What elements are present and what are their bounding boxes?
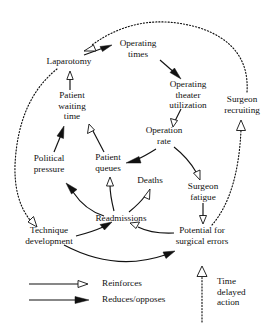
legend-reinforces-arrowhead-icon <box>78 281 88 288</box>
link-readmissions-to-political-pressure <box>66 183 104 216</box>
node-surgeon-fatigue-line-1: fatigue <box>190 192 216 202</box>
node-surgeon-fatigue-line-0: Surgeon <box>188 181 219 191</box>
node-patient-waiting-time: Patientwaitingtime <box>58 90 86 121</box>
link-surgical-errors-to-surgeon-recruiting <box>212 120 246 225</box>
link-surgeon-recruiting-to-laparotomy <box>84 22 247 92</box>
node-technique-dev-line-1: development <box>25 236 73 246</box>
link-technique-dev-to-surgical-errors <box>64 245 175 262</box>
node-deaths: Deaths <box>137 175 163 185</box>
nodes-layer: Laparotomy Operatingtimes Operatingtheat… <box>25 38 260 246</box>
legend-delay-arrowhead-icon <box>197 266 207 277</box>
node-technique-development: Techniquedevelopment <box>25 225 73 246</box>
node-technique-dev-line-0: Technique <box>30 225 68 235</box>
node-patient-waiting-line-1: waiting <box>58 101 86 111</box>
legend-reduces-label: Reduces/opposes <box>102 294 166 304</box>
svg-text:Operationrate: Operationrate <box>146 125 183 146</box>
svg-text:Deaths: Deaths <box>137 175 163 185</box>
node-surgeon-recruiting-line-0: Surgeon <box>227 94 258 104</box>
link-patient-queues-to-patient-waiting <box>88 124 105 152</box>
node-surgeon-recruiting: Surgeonrecruiting <box>224 94 260 115</box>
node-political-pressure-line-0: Political <box>34 153 65 163</box>
link-readmissions-to-patient-queues <box>107 177 115 211</box>
node-patient-waiting-line-2: time <box>64 111 80 121</box>
svg-text:Laparotomy: Laparotomy <box>47 56 92 66</box>
svg-text:Timedelayedaction: Timedelayedaction <box>217 276 246 307</box>
svg-text:Surgeonrecruiting: Surgeonrecruiting <box>224 94 260 115</box>
svg-text:Patientqueues: Patientqueues <box>95 152 121 173</box>
diagram-canvas: Laparotomy Operatingtimes Operatingtheat… <box>0 0 272 332</box>
legend-reduces-arrowhead-icon <box>75 297 89 304</box>
link-surgeon-fatigue-to-surgical-errors <box>200 203 207 224</box>
link-operation-rate-to-surgeon-fatigue <box>174 147 200 180</box>
link-political-pressure-to-patient-waiting <box>54 126 64 152</box>
svg-text:Readmissions: Readmissions <box>95 213 146 223</box>
node-ot-utilization-line-0: Operating <box>170 79 207 89</box>
node-operation-rate: Operationrate <box>146 125 183 146</box>
node-operating-times: Operatingtimes <box>120 38 157 59</box>
node-operation-rate-line-0: Operation <box>146 125 183 135</box>
node-surgeon-recruiting-line-1: recruiting <box>224 105 260 115</box>
legend-reinforces-label: Reinforces <box>102 278 142 288</box>
svg-text:Politicalpressure: Politicalpressure <box>34 153 65 174</box>
svg-text:Potential forsurgical errors: Potential forsurgical errors <box>176 225 229 246</box>
svg-text:Patientwaitingtime: Patientwaitingtime <box>58 90 86 121</box>
node-surgeon-fatigue: Surgeonfatigue <box>188 181 219 202</box>
node-operating-times-line-1: times <box>128 49 148 59</box>
legend-item-reinforces: Reinforces <box>29 278 142 288</box>
node-ot-utilization-line-1: theater <box>176 90 201 100</box>
node-operating-times-line-0: Operating <box>120 38 157 48</box>
node-readmissions-line-0: Readmissions <box>95 213 146 223</box>
svg-text:Operatingtimes: Operatingtimes <box>120 38 157 59</box>
node-surgical-errors-line-1: surgical errors <box>176 236 229 246</box>
node-laparotomy-line-0: Laparotomy <box>47 56 92 66</box>
causal-loop-diagram: Laparotomy Operatingtimes Operatingtheat… <box>0 0 272 332</box>
node-surgical-errors-line-0: Potential for <box>179 225 225 235</box>
node-political-pressure: Politicalpressure <box>34 153 65 174</box>
link-readmissions-to-deaths <box>129 189 150 212</box>
node-readmissions: Readmissions <box>95 213 146 223</box>
node-operating-theater-utilization: Operatingtheaterutilization <box>169 79 207 110</box>
node-patient-queues-line-0: Patient <box>95 152 121 162</box>
node-operation-rate-line-1: rate <box>157 136 171 146</box>
link-operation-rate-to-patient-queues <box>126 149 156 163</box>
node-patient-queues: Patientqueues <box>95 152 121 173</box>
node-political-pressure-line-1: pressure <box>34 164 65 174</box>
node-laparotomy: Laparotomy <box>47 56 92 66</box>
svg-text:Surgeonfatigue: Surgeonfatigue <box>188 181 219 202</box>
svg-text:Techniquedevelopment: Techniquedevelopment <box>25 225 73 246</box>
node-patient-waiting-line-0: Patient <box>59 90 85 100</box>
node-potential-for-surgical-errors: Potential forsurgical errors <box>176 225 229 246</box>
node-deaths-line-0: Deaths <box>137 175 163 185</box>
link-surgical-errors-to-readmissions <box>130 222 174 233</box>
link-technique-dev-to-readmissions <box>76 222 112 236</box>
legend-delay-line-0: Time <box>217 276 236 286</box>
link-patient-waiting-to-laparotomy <box>67 71 73 90</box>
node-patient-queues-line-1: queues <box>95 163 121 173</box>
legend-delay-line-1: delayed <box>217 287 246 297</box>
legend: Reinforces Reduces/opposes Timedelayedac… <box>29 266 246 322</box>
legend-delay-line-2: action <box>217 297 240 307</box>
svg-text:Operatingtheaterutilization: Operatingtheaterutilization <box>169 79 207 110</box>
link-laparotomy-to-technique-dev <box>15 69 57 227</box>
link-operating-times-to-ot-utilization <box>160 60 181 79</box>
legend-item-time-delayed-action: Timedelayedaction <box>197 266 246 322</box>
node-ot-utilization-line-2: utilization <box>169 100 207 110</box>
legend-item-reduces-opposes: Reduces/opposes <box>29 294 166 304</box>
